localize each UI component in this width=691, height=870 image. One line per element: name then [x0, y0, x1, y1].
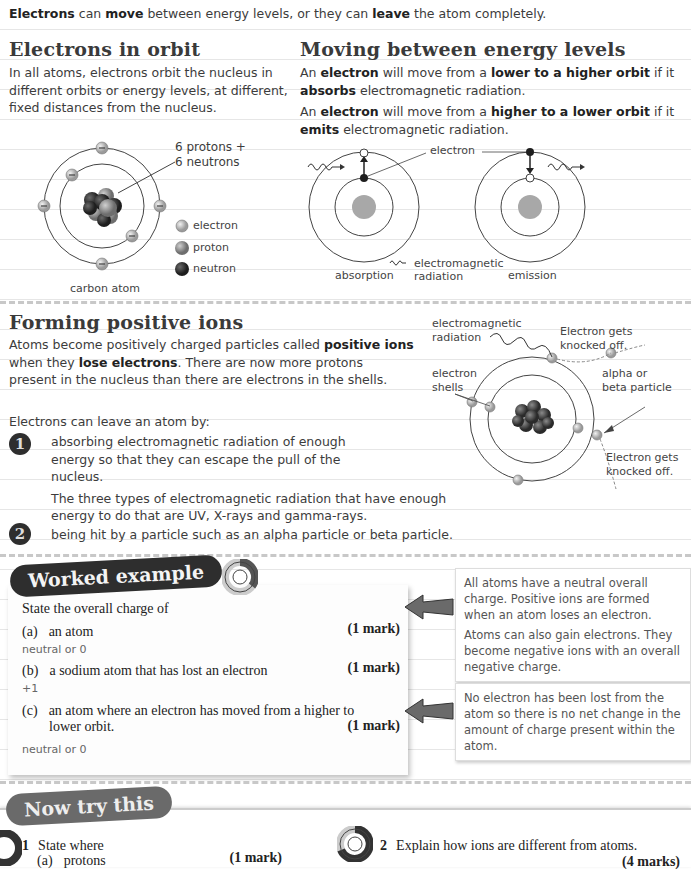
carbon-atom-icon [30, 138, 290, 298]
step-2: 2 being hit by a particle such as an alp… [9, 526, 519, 544]
levels-para-absorb: An electron will move from a lower to a … [300, 64, 685, 99]
electron-label: electron [430, 144, 475, 157]
absorption-caption: absorption [335, 269, 394, 282]
knocked-off-top-label: Electron gets knocked off. [560, 325, 632, 353]
note-box-no-electron-lost: No electron has been lost from the atom … [455, 683, 691, 761]
difficulty-dial-icon [0, 830, 22, 866]
ions-body: Atoms become positively charged particle… [9, 336, 414, 389]
levels-heading: Moving between energy levels [300, 38, 685, 60]
intro-text: can [75, 6, 105, 21]
intro-bold: Electrons [9, 6, 75, 21]
electron-shells-label: electron shells [432, 367, 477, 395]
worked-question-b: (b) a sodium atom that has lost an elect… [22, 660, 400, 679]
step-text: absorbing electromagnetic radiation of e… [51, 433, 361, 486]
carbon-atom-caption: carbon atom [70, 282, 140, 295]
section-divider [0, 781, 691, 784]
knocked-off-bottom-label: Electron gets knocked off. [606, 451, 678, 479]
question-2: 2 Explain how ions are different from at… [380, 835, 680, 870]
section-divider [0, 554, 691, 557]
alpha-beta-label: alpha or beta particle [602, 367, 672, 395]
arrow-left-icon [405, 593, 455, 621]
legend-neutron-label: neutron [193, 262, 236, 275]
orbit-body: In all atoms, electrons orbit the nucleu… [9, 64, 299, 117]
ions-heading: Forming positive ions [9, 311, 414, 333]
worked-question-c: (c) an atom where an electron has moved … [22, 700, 400, 735]
arrow-left-icon [405, 697, 455, 725]
ion-radiation-label: electromagnetic radiation [432, 317, 522, 345]
levels-section: Moving between energy levels An electron… [300, 38, 685, 138]
intro-bold: leave [372, 6, 410, 21]
worked-question-a: (a) an atom (1 mark) [22, 621, 400, 640]
step-number-badge: 1 [9, 433, 31, 455]
legend-electron-label: electron [193, 219, 238, 232]
intro-bold: move [105, 6, 143, 21]
section-divider [0, 301, 691, 304]
worked-prompt: State the overall charge of [22, 601, 169, 617]
em-radiation-label: electromagnetic radiation [414, 257, 504, 283]
energy-level-diagram: electron electromagnetic radiation absor… [290, 140, 690, 290]
carbon-atom-diagram: 6 protons + 6 neutrons electron proton n… [30, 138, 290, 298]
difficulty-dial-icon [222, 559, 258, 595]
emission-caption: emission [508, 269, 557, 282]
orbit-section: Electrons in orbit In all atoms, electro… [9, 38, 299, 117]
intro-sentence: Electrons can move between energy levels… [9, 6, 546, 21]
ion-formation-diagram: electromagnetic radiation Electron gets … [420, 315, 691, 505]
orbit-heading: Electrons in orbit [9, 38, 299, 60]
leave-intro: Electrons can leave an atom by: [9, 414, 210, 429]
difficulty-dial-icon [337, 826, 373, 862]
intro-text: the atom completely. [410, 6, 546, 21]
ions-section: Forming positive ions Atoms become posit… [9, 311, 414, 389]
intro-text: between energy levels, or they can [143, 6, 372, 21]
nucleus-label: 6 protons + 6 neutrons [175, 140, 246, 170]
levels-para-emit: An electron will move from a higher to a… [300, 103, 685, 138]
worked-answer-c: neutral or 0 [22, 743, 87, 756]
worked-answer-b: +1 [22, 682, 38, 695]
step-text: being hit by a particle such as an alpha… [51, 526, 519, 544]
note-box-neutral-charge: All atoms have a neutral overall charge.… [455, 568, 691, 682]
worked-answer-a: neutral or 0 [22, 643, 87, 656]
step-number-badge: 2 [9, 523, 31, 545]
question-1a: (a) protons (1 mark) [37, 850, 282, 869]
legend-proton-label: proton [193, 241, 229, 254]
